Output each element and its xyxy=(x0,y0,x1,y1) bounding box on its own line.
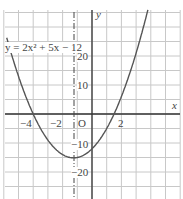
origin-label: O xyxy=(78,118,86,129)
x-tick-neg4: −4 xyxy=(20,118,32,129)
y-axis-label: y xyxy=(96,9,101,20)
y-tick-neg10: −10 xyxy=(71,139,88,150)
parabola-chart xyxy=(0,0,183,199)
x-tick-2: 2 xyxy=(118,118,124,129)
x-tick-neg2: −2 xyxy=(50,118,62,129)
x-axis-label: x xyxy=(172,100,177,111)
y-tick-10: 10 xyxy=(77,80,88,91)
equation-label: y = 2x² + 5x − 12 xyxy=(5,42,82,53)
y-tick-20: 20 xyxy=(77,51,88,62)
y-tick-neg20: −20 xyxy=(71,167,88,178)
